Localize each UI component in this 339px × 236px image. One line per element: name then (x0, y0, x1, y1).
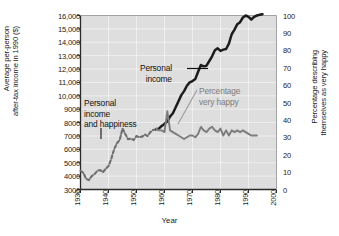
annotation-pih-line3: and happiness (84, 119, 137, 130)
annotation-personal-income-line2: income (140, 74, 172, 85)
annotation-percentage-very-happy: Percentage very happy (199, 86, 240, 107)
annotation-pih-line1: Personal (84, 98, 137, 109)
annotation-personal-income-and-happiness: Personal income and happiness (84, 98, 137, 130)
annotation-vh-line1: Percentage (199, 86, 240, 97)
annotation-pih-line2: income (84, 109, 137, 120)
chart-figure: Average per-person after-tax income in 1… (0, 0, 339, 236)
annotation-personal-income-line1: Personal (140, 63, 172, 74)
annotation-vh-line2: very happy (199, 97, 240, 108)
plot-area (0, 0, 339, 236)
annotation-personal-income: Personal income (140, 63, 172, 84)
